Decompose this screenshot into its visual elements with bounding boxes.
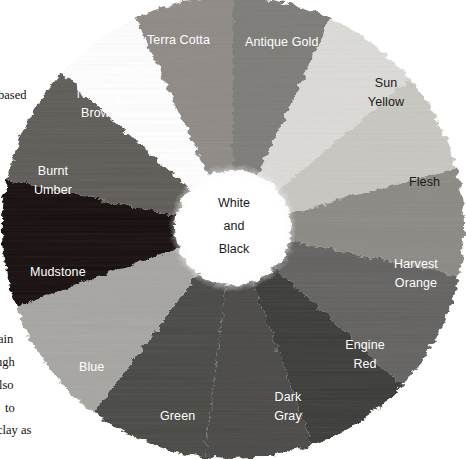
hub-label-white: White: [206, 192, 262, 214]
hub-label-and: and: [206, 215, 262, 237]
margin-text-fragment: clay as: [0, 423, 31, 437]
margin-text-fragment: ugh: [0, 355, 15, 369]
margin-text-fragment: based: [0, 88, 26, 102]
hub-label-black: Black: [206, 238, 262, 260]
margin-text-fragment: ain: [0, 332, 13, 346]
margin-text-fragment: to: [5, 401, 15, 415]
margin-text-fragment: lso: [0, 378, 14, 392]
pigment-color-wheel-figure: White and Black Terra Cotta Antique Gold…: [0, 0, 466, 459]
